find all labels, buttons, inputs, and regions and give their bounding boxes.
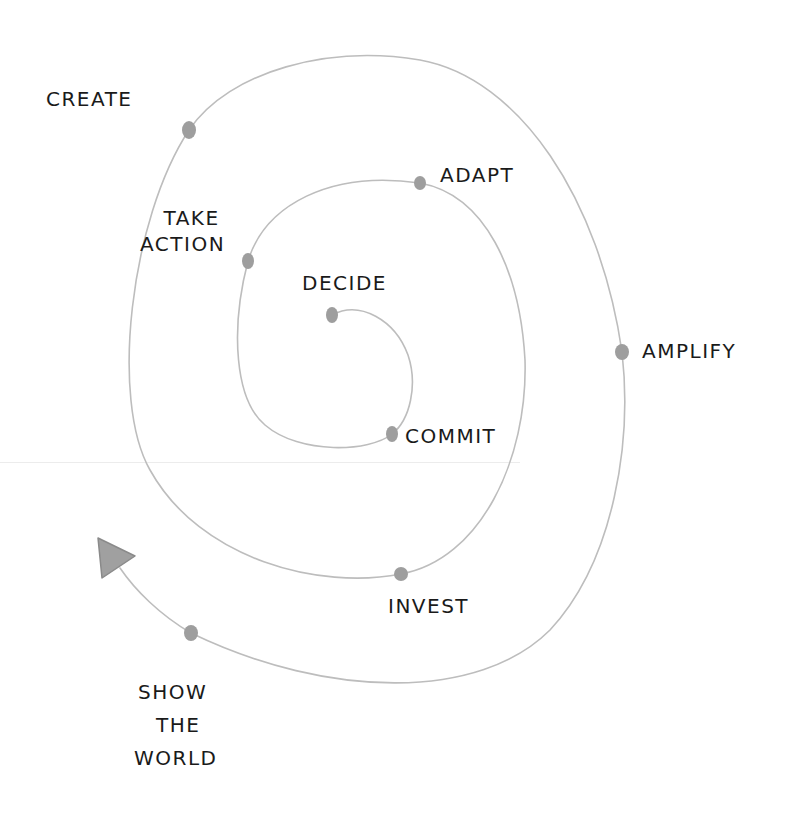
dot-commit xyxy=(386,426,398,442)
dot-amplify xyxy=(615,344,629,360)
label-show-the-world-line3: WORLD xyxy=(128,742,217,775)
label-amplify: AMPLIFY xyxy=(642,338,736,364)
arrowhead-icon xyxy=(98,538,135,578)
label-decide: DECIDE xyxy=(302,270,387,296)
label-create: CREATE xyxy=(46,86,132,112)
label-show-the-world-line2: THE xyxy=(128,709,217,742)
spiral-svg xyxy=(0,0,801,817)
label-take-action-line2: ACTION xyxy=(140,231,225,257)
dot-decide xyxy=(326,307,338,323)
spiral-path xyxy=(120,56,625,683)
label-commit: COMMIT xyxy=(405,423,496,449)
label-adapt: ADAPT xyxy=(440,162,514,188)
dot-adapt xyxy=(414,176,426,190)
label-invest: INVEST xyxy=(388,593,469,619)
dot-show-the-world xyxy=(184,625,198,641)
dot-take-action xyxy=(242,253,254,269)
dot-invest xyxy=(394,567,408,581)
label-show-the-world: SHOW THE WORLD xyxy=(128,676,217,775)
spiral-diagram: CREATE ADAPT TAKE ACTION DECIDE AMPLIFY … xyxy=(0,0,801,817)
label-take-action-line1: TAKE xyxy=(140,205,225,231)
dot-create xyxy=(182,121,196,139)
label-show-the-world-line1: SHOW xyxy=(128,676,217,709)
label-take-action: TAKE ACTION xyxy=(140,205,225,257)
